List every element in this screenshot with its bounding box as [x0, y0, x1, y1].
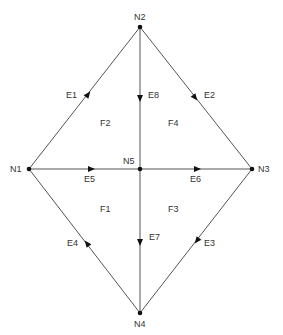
- node-n3: [250, 167, 255, 172]
- edge-label-e8: E8: [148, 90, 159, 100]
- edge-e1: [29, 27, 140, 169]
- node-label-n2: N2: [134, 12, 146, 22]
- edge-label-e5: E5: [84, 174, 95, 184]
- edge-label-e1: E1: [66, 90, 77, 100]
- edge-label-e6: E6: [190, 174, 201, 184]
- face-label-f4: F4: [168, 118, 179, 128]
- edge-label-e4: E4: [67, 238, 78, 248]
- arrow-e7-icon: [137, 239, 143, 246]
- node-label-n1: N1: [10, 164, 22, 174]
- arrow-e5-icon: [88, 166, 95, 172]
- edge-e4: [29, 169, 140, 313]
- edge-label-e7: E7: [149, 232, 160, 242]
- face-label-f1: F1: [100, 204, 111, 214]
- arrow-e6-icon: [194, 166, 201, 172]
- face-label-f2: F2: [100, 118, 111, 128]
- node-n2: [138, 25, 143, 30]
- node-n4: [138, 311, 143, 316]
- node-label-n3: N3: [258, 164, 270, 174]
- face-label-f3: F3: [168, 204, 179, 214]
- node-label-n4: N4: [134, 319, 146, 329]
- node-label-n5: N5: [123, 156, 135, 166]
- graph-diagram: N1 N2 N3 N4 N5 E1 E2 E3 E4 E5 E6 E7 E8 F…: [0, 0, 283, 335]
- node-n1: [27, 167, 32, 172]
- arrow-e8-icon: [137, 95, 143, 102]
- edge-label-e3: E3: [204, 238, 215, 248]
- edge-label-e2: E2: [204, 90, 215, 100]
- node-n5: [138, 167, 143, 172]
- face-labels: F1 F2 F3 F4: [100, 118, 179, 214]
